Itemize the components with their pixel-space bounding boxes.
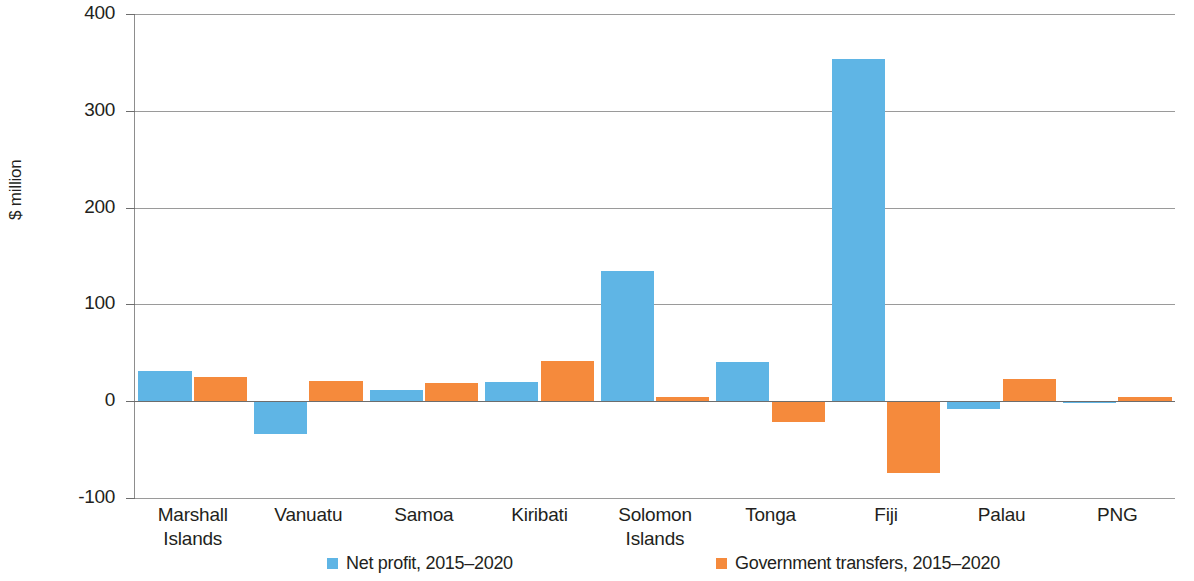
- bar[interactable]: [947, 401, 1000, 409]
- bar-group: [366, 14, 482, 498]
- legend-item-government-transfers: Government transfers, 2015–2020: [716, 553, 1000, 574]
- x-axis-labels: MarshallIslandsVanuatuSamoaKiribatiSolom…: [135, 503, 1175, 553]
- x-label-line: Kiribati: [482, 503, 598, 527]
- x-label-line: Islands: [597, 527, 713, 551]
- bar[interactable]: [832, 59, 885, 401]
- bar[interactable]: [485, 382, 538, 401]
- bar[interactable]: [309, 381, 362, 401]
- bar[interactable]: [1003, 379, 1056, 401]
- legend-swatch-icon: [327, 558, 338, 569]
- x-label-line: Tonga: [713, 503, 829, 527]
- chart-legend: Net profit, 2015–2020 Government transfe…: [0, 553, 1194, 581]
- x-label-line: Vanuatu: [251, 503, 367, 527]
- x-axis-label: Tonga: [713, 503, 829, 527]
- x-axis-label: Kiribati: [482, 503, 598, 527]
- bar-group: [135, 14, 251, 498]
- x-label-line: Fiji: [828, 503, 944, 527]
- x-label-line: Samoa: [366, 503, 482, 527]
- y-tick-label: 200: [5, 196, 115, 218]
- bar-group: [482, 14, 598, 498]
- bar[interactable]: [716, 362, 769, 402]
- legend-label: Net profit, 2015–2020: [346, 553, 513, 574]
- bar[interactable]: [370, 390, 423, 402]
- bar[interactable]: [194, 377, 247, 401]
- zero-line: [135, 401, 1175, 402]
- gridline: [135, 498, 1175, 499]
- x-axis-label: Palau: [944, 503, 1060, 527]
- x-label-line: PNG: [1059, 503, 1175, 527]
- y-tick-label: 100: [5, 292, 115, 314]
- bar-group: [1059, 14, 1175, 498]
- bar[interactable]: [138, 371, 191, 401]
- x-label-line: Marshall: [135, 503, 251, 527]
- y-tick-label: 300: [5, 99, 115, 121]
- y-tick-label: -100: [5, 486, 115, 508]
- y-tick-mark: [126, 208, 135, 209]
- bars-layer: [135, 14, 1175, 498]
- bar[interactable]: [254, 401, 307, 434]
- y-tick-mark: [126, 14, 135, 15]
- x-axis-label: MarshallIslands: [135, 503, 251, 551]
- bar-group: [713, 14, 829, 498]
- legend-item-net-profit: Net profit, 2015–2020: [327, 553, 513, 574]
- bar[interactable]: [772, 401, 825, 421]
- x-axis-label: PNG: [1059, 503, 1175, 527]
- bar-group: [597, 14, 713, 498]
- bar-group: [251, 14, 367, 498]
- y-tick-mark: [126, 304, 135, 305]
- legend-label: Government transfers, 2015–2020: [735, 553, 1000, 574]
- y-tick-mark: [126, 111, 135, 112]
- y-tick-mark: [126, 401, 135, 402]
- chart-page: $ million 4003002001000-100 MarshallIsla…: [0, 0, 1194, 581]
- bar-group: [944, 14, 1060, 498]
- bar[interactable]: [425, 383, 478, 401]
- x-axis-label: Fiji: [828, 503, 944, 527]
- x-axis-label: SolomonIslands: [597, 503, 713, 551]
- y-tick-mark: [126, 498, 135, 499]
- bar[interactable]: [541, 361, 594, 402]
- legend-swatch-icon: [716, 558, 727, 569]
- bar[interactable]: [887, 401, 940, 473]
- y-tick-label: 0: [5, 389, 115, 411]
- plot-area: 4003002001000-100: [135, 14, 1175, 498]
- x-axis-label: Vanuatu: [251, 503, 367, 527]
- x-axis-label: Samoa: [366, 503, 482, 527]
- x-label-line: Islands: [135, 527, 251, 551]
- x-label-line: Palau: [944, 503, 1060, 527]
- y-tick-label: 400: [5, 2, 115, 24]
- bar[interactable]: [601, 271, 654, 401]
- bar-group: [828, 14, 944, 498]
- x-label-line: Solomon: [597, 503, 713, 527]
